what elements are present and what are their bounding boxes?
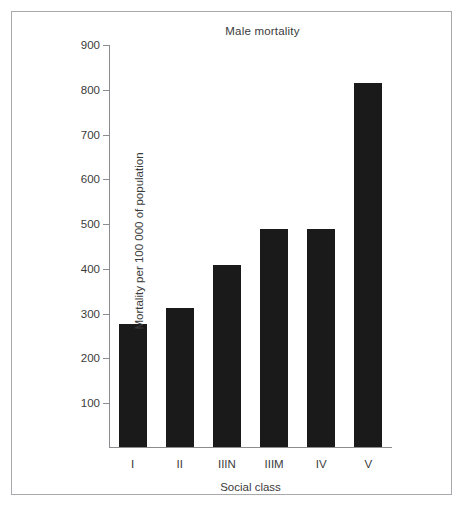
bar-IV [307, 229, 335, 448]
x-axis-tick-label-II: II [177, 458, 183, 470]
figure-frame: Male mortality 1002003004005006007008009… [11, 11, 452, 495]
y-axis-tick-mark [103, 45, 110, 46]
x-axis-tick-label-I: I [131, 458, 134, 470]
y-axis-tick-mark [103, 135, 110, 136]
bar-V [354, 83, 382, 447]
bar-IIIM [260, 229, 288, 448]
y-axis-tick-label: 600 [81, 173, 100, 185]
y-axis-tick-label: 400 [81, 263, 100, 275]
bar-II [166, 308, 194, 447]
y-axis-tick-mark [103, 314, 110, 315]
y-axis-tick-mark [103, 90, 110, 91]
y-axis-tick-label: 200 [81, 352, 100, 364]
y-axis-tick-mark [103, 179, 110, 180]
bar-IIIN [213, 265, 241, 447]
y-axis-tick-mark [103, 403, 110, 404]
x-axis-tick-label-V: V [365, 458, 373, 470]
y-axis-title: Mortality per 100 000 of population [133, 96, 145, 386]
y-axis-tick-label: 900 [81, 39, 100, 51]
x-axis-tick-label-IIIN: IIIN [218, 458, 236, 470]
y-axis-tick-label: 500 [81, 218, 100, 230]
y-axis-line [109, 45, 110, 448]
y-axis-tick-mark [103, 269, 110, 270]
y-axis-tick-label: 300 [81, 308, 100, 320]
x-axis-tick-label-IIIM: IIIM [264, 458, 283, 470]
y-axis-tick-mark [103, 358, 110, 359]
y-axis-tick-mark [103, 224, 110, 225]
x-axis-line [109, 447, 392, 448]
y-axis-tick-label: 800 [81, 84, 100, 96]
y-axis-tick-label: 700 [81, 129, 100, 141]
x-axis-tick-label-IV: IV [316, 458, 327, 470]
y-axis-tick-label: 100 [81, 397, 100, 409]
chart-title: Male mortality [12, 25, 453, 37]
x-axis-title: Social class [109, 481, 392, 493]
plot-area: 100200300400500600700800900 IIIIIINIIIMI… [109, 45, 392, 448]
